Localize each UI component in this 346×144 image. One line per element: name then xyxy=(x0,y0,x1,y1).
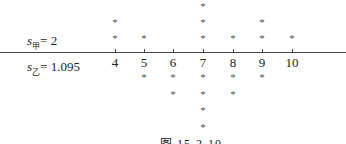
data-point-star: * xyxy=(259,17,265,28)
data-point-star: * xyxy=(230,33,236,44)
data-point-star: * xyxy=(170,72,176,83)
tick-label: 9 xyxy=(259,55,266,71)
std-value: = 2 xyxy=(40,33,57,48)
data-point-star: * xyxy=(141,72,147,83)
tick-mark xyxy=(233,49,234,53)
data-point-star: * xyxy=(141,33,147,44)
tick-mark xyxy=(292,49,293,53)
std-subscript: 乙 xyxy=(32,68,40,77)
data-point-star: * xyxy=(200,88,206,99)
tick-mark xyxy=(115,49,116,53)
data-point-star: * xyxy=(112,33,118,44)
tick-label: 6 xyxy=(170,55,177,71)
tick-label: 7 xyxy=(200,55,207,71)
tick-mark xyxy=(262,49,263,53)
tick-label: 8 xyxy=(230,55,237,71)
std-value: = 1.095 xyxy=(40,59,80,74)
data-point-star: * xyxy=(230,88,236,99)
data-point-star: * xyxy=(200,72,206,83)
tick-mark xyxy=(144,49,145,53)
tick-label: 10 xyxy=(286,55,299,71)
data-point-star: * xyxy=(289,33,295,44)
data-point-star: * xyxy=(170,88,176,99)
std-subscript: 甲 xyxy=(32,42,40,51)
data-point-star: * xyxy=(259,33,265,44)
data-point-star: * xyxy=(200,17,206,28)
data-point-star: * xyxy=(230,72,236,83)
data-point-star: * xyxy=(200,121,206,132)
tick-label: 5 xyxy=(141,55,148,71)
data-point-star: * xyxy=(200,33,206,44)
data-point-star: * xyxy=(259,72,265,83)
data-point-star: * xyxy=(112,17,118,28)
data-point-star: * xyxy=(200,1,206,12)
std-label-jia: s甲= 2 xyxy=(27,33,57,51)
tick-mark xyxy=(173,49,174,53)
tick-mark xyxy=(203,49,204,53)
data-point-star: * xyxy=(200,105,206,116)
tick-label: 4 xyxy=(112,55,119,71)
std-label-yi: s乙= 1.095 xyxy=(27,59,80,77)
figure-caption: 图 15-2-10 xyxy=(160,134,222,144)
